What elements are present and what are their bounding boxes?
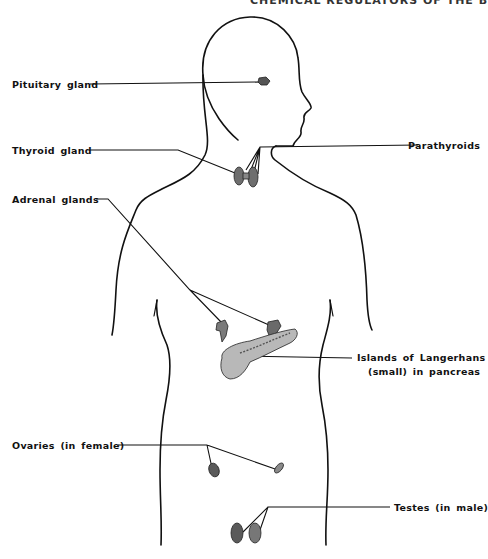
- label-ovaries: Ovaries (in female): [12, 440, 124, 452]
- thyroid-lobe-right: [248, 167, 258, 187]
- label-langerhans-line2: (small) in pancreas: [368, 366, 480, 378]
- thyroid-lobe-left: [234, 167, 244, 185]
- adrenal-gland-left: [216, 320, 228, 342]
- pituitary-gland: [258, 77, 270, 85]
- ovary-right: [273, 461, 285, 474]
- testis-right: [249, 523, 261, 543]
- label-thyroid-gland: Thyroid gland: [12, 145, 92, 157]
- label-adrenal-glands: Adrenal glands: [12, 194, 99, 206]
- pancreas: [221, 329, 297, 379]
- thyroid-leader: [90, 150, 240, 175]
- ovaries-leader: [118, 445, 278, 470]
- label-testes: Testes (in male): [394, 502, 488, 514]
- pituitary-leader: [90, 82, 262, 84]
- head-outline: [203, 17, 311, 146]
- right-shoulder-outline: [271, 146, 372, 330]
- label-parathyroids: Parathyroids: [408, 140, 480, 152]
- ovary-left: [207, 462, 221, 479]
- left-shoulder-outline: [112, 75, 208, 335]
- testis-left: [231, 523, 243, 543]
- testes-leader: [243, 507, 390, 532]
- thyroid-isthmus: [243, 173, 249, 179]
- label-langerhans-line1: Islands of Langerhans: [357, 352, 485, 364]
- label-pituitary-gland: Pituitary gland: [12, 79, 98, 91]
- right-torso-outline: [319, 300, 330, 545]
- adrenal-leader: [96, 199, 269, 325]
- left-torso-outline: [157, 300, 170, 545]
